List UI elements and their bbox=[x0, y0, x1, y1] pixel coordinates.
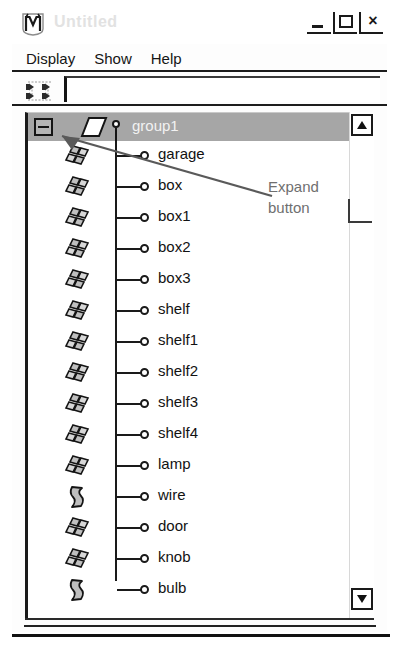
tree-branch-line bbox=[117, 217, 141, 219]
tree-row-label: knob bbox=[158, 548, 191, 565]
mesh-patch-icon bbox=[64, 237, 94, 261]
tree-branch-line bbox=[117, 558, 141, 560]
title-bar: Untitled × bbox=[12, 6, 387, 44]
window-inner-rule bbox=[24, 625, 376, 627]
menu-item-display[interactable]: Display bbox=[26, 50, 75, 67]
mesh-patch-icon bbox=[64, 144, 94, 168]
root-node-stem bbox=[115, 128, 117, 141]
tree-branch-line bbox=[117, 310, 141, 312]
tree-node-dot bbox=[140, 430, 149, 439]
mesh-patch-icon bbox=[64, 454, 94, 478]
tree-row[interactable]: bulb bbox=[28, 575, 364, 606]
tree-node-dot bbox=[140, 275, 149, 284]
mesh-patch-icon bbox=[64, 330, 94, 354]
tree-row[interactable]: box2 bbox=[28, 234, 364, 265]
scanned-page: Untitled × Display Show Help bbox=[0, 0, 401, 652]
mesh-patch-icon bbox=[64, 516, 94, 540]
tree-node-dot bbox=[140, 492, 149, 501]
tree-row-label: box1 bbox=[158, 207, 191, 224]
tree-node-dot bbox=[140, 213, 149, 222]
tree-row-label: shelf bbox=[158, 300, 190, 317]
maximize-icon bbox=[339, 15, 353, 28]
mesh-patch-icon bbox=[64, 268, 94, 292]
minimize-icon bbox=[312, 25, 323, 28]
annotation-line-1: Expand bbox=[268, 176, 319, 197]
tree-branch-line bbox=[117, 589, 141, 591]
menu-item-show[interactable]: Show bbox=[94, 50, 132, 67]
tree-row-label: shelf1 bbox=[158, 331, 198, 348]
tree-branch-line bbox=[117, 155, 141, 157]
tree-row[interactable]: wire bbox=[28, 482, 364, 513]
maximize-button[interactable] bbox=[333, 12, 357, 34]
tree-node-dot bbox=[140, 554, 149, 563]
tree-node-dot bbox=[140, 461, 149, 470]
menu-item-help[interactable]: Help bbox=[151, 50, 182, 67]
corner-artifact bbox=[348, 199, 372, 223]
tree-root-label: group1 bbox=[132, 117, 179, 134]
annotation-line-2: button bbox=[268, 197, 319, 218]
tree-node-dot bbox=[140, 368, 149, 377]
application-window: Untitled × Display Show Help bbox=[12, 6, 387, 632]
tree-row[interactable]: shelf4 bbox=[28, 420, 364, 451]
root-node-dot bbox=[112, 120, 120, 128]
tree-branch-line bbox=[117, 248, 141, 250]
tree-row[interactable]: knob bbox=[28, 544, 364, 575]
triangle-up bbox=[357, 121, 367, 129]
tree-node-dot bbox=[140, 585, 149, 594]
scroll-down-arrow-icon[interactable] bbox=[351, 588, 373, 610]
menu-bar: Display Show Help bbox=[12, 46, 387, 72]
tree-row[interactable]: box3 bbox=[28, 265, 364, 296]
tree-row[interactable]: shelf bbox=[28, 296, 364, 327]
toolbar bbox=[12, 74, 387, 106]
tree-row[interactable]: shelf3 bbox=[28, 389, 364, 420]
tree-row-label: shelf4 bbox=[158, 424, 198, 441]
tree-row[interactable]: shelf2 bbox=[28, 358, 364, 389]
curved-patch-icon bbox=[64, 578, 94, 602]
tree-node-dot bbox=[140, 151, 149, 160]
tree-row[interactable]: garage bbox=[28, 141, 364, 172]
curved-patch-icon bbox=[64, 485, 94, 509]
tree-node-dot bbox=[140, 523, 149, 532]
tree-row-label: box2 bbox=[158, 238, 191, 255]
scroll-up-arrow-icon[interactable] bbox=[351, 114, 373, 136]
tree-node-dot bbox=[140, 244, 149, 253]
annotation-label: Expand button bbox=[268, 176, 319, 218]
tree-node-dot bbox=[140, 337, 149, 346]
tree-branch-line bbox=[117, 279, 141, 281]
tree-row-label: box bbox=[158, 176, 182, 193]
tree-row[interactable]: lamp bbox=[28, 451, 364, 482]
tree-row[interactable]: shelf1 bbox=[28, 327, 364, 358]
plane-patch-icon bbox=[80, 116, 108, 138]
tree-row[interactable]: door bbox=[28, 513, 364, 544]
tree-branch-line bbox=[117, 496, 141, 498]
tree-branch-line bbox=[117, 403, 141, 405]
tree-branch-line bbox=[117, 372, 141, 374]
window-title: Untitled bbox=[54, 13, 118, 31]
window-bottom-rule bbox=[12, 634, 390, 637]
tree-node-dot bbox=[140, 399, 149, 408]
tree-branch-line bbox=[117, 341, 141, 343]
mesh-patch-icon bbox=[64, 547, 94, 571]
minimize-button[interactable] bbox=[307, 12, 331, 34]
tree-branch-line bbox=[117, 527, 141, 529]
tree-root-row[interactable]: group1 bbox=[28, 113, 364, 141]
tree-row-label: bulb bbox=[158, 579, 186, 596]
mesh-patch-icon bbox=[64, 206, 94, 230]
hierarchy-nodes-icon[interactable] bbox=[22, 78, 58, 104]
window-controls: × bbox=[307, 12, 383, 34]
mesh-patch-icon bbox=[64, 175, 94, 199]
tree-row-label: door bbox=[158, 517, 188, 534]
tree-node-dot bbox=[140, 306, 149, 315]
tree-row-label: wire bbox=[158, 486, 186, 503]
tree-branch-line bbox=[117, 186, 141, 188]
expand-button[interactable] bbox=[34, 118, 53, 136]
vertical-scrollbar[interactable] bbox=[349, 112, 374, 618]
tree-branch-line bbox=[117, 434, 141, 436]
mesh-patch-icon bbox=[64, 361, 94, 385]
path-input[interactable] bbox=[64, 76, 380, 102]
close-button[interactable]: × bbox=[359, 12, 383, 34]
close-icon: × bbox=[361, 13, 385, 29]
scene-tree-panel: group1 garageboxbox1box2box3shelfshelf1s… bbox=[25, 112, 374, 618]
mesh-patch-icon bbox=[64, 299, 94, 323]
tree-row-label: lamp bbox=[158, 455, 191, 472]
